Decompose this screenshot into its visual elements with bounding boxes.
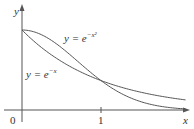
x-tick-label-1: 1 bbox=[98, 114, 104, 126]
y-axis-label: y bbox=[13, 5, 19, 17]
exponential-curve bbox=[22, 30, 186, 100]
x-axis-label: x bbox=[182, 114, 188, 126]
y-axis-arrow-icon bbox=[20, 4, 25, 11]
exponential-curve-label: y = e−x bbox=[25, 67, 57, 80]
origin-label: 0 bbox=[10, 114, 16, 126]
gaussian-curve-label: y = e−x² bbox=[63, 31, 98, 44]
chart: y x 0 1 y = e−x² y = e−x bbox=[0, 0, 194, 129]
x-axis-arrow-icon bbox=[183, 108, 190, 113]
